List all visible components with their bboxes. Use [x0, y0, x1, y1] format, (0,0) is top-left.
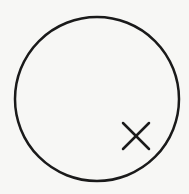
x-mark-icon — [123, 123, 149, 149]
circle-shape — [15, 17, 179, 181]
diagram-canvas — [0, 0, 189, 194]
diagram-svg — [0, 0, 189, 194]
